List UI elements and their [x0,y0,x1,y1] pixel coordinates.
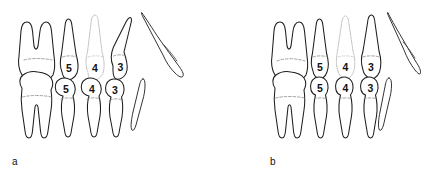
lower-canine-3-number: 3 [112,84,118,96]
panel-b-lower-canine-3: 3 [360,77,378,138]
panel-a-lower-premolar-4: 4 [81,78,101,137]
panel-b-label: b [270,156,276,167]
upper-premolar-5-number: 5 [317,61,323,73]
panel-a-upper-canine-3: 3 [111,18,131,80]
panel-a-upper-premolar-5: 5 [60,19,78,80]
panel-b-upper-premolar-4: 4 [336,16,354,79]
panel-b-isolated-tooth-lower [378,78,391,130]
panel-b-lower-premolar-4: 4 [335,77,353,138]
panel-b-lower-arch-row: 5 4 3 [273,72,378,138]
lower-molar-outline [273,72,306,138]
panel-a: 5 4 3 [12,13,183,167]
panel-b-lower-premolar-5: 5 [310,77,328,138]
panel-a-lower-arch-row: 5 4 3 [20,72,124,138]
lower-premolar-4-number: 4 [343,82,349,94]
lower-canine-3-number: 3 [368,82,374,94]
panel-b-upper-premolar-5: 5 [311,19,328,79]
lower-molar-outline [20,72,53,138]
panel-a-isolated-teeth [131,13,183,131]
panel-a-lower-molar [20,72,53,138]
dental-diagram-figure: 5 4 3 [0,0,421,179]
panel-a-isolated-tooth-lower [131,79,145,130]
isolated-tooth-lower-outline [378,78,391,130]
upper-canine-3-number: 3 [118,61,124,73]
upper-premolar-4-number: 4 [343,61,349,73]
upper-premolar-5-number: 5 [66,62,72,74]
panel-a-isolated-tooth-upper [141,13,183,77]
figure-canvas: 5 4 3 [0,0,421,179]
panel-a-lower-canine-3: 3 [105,79,124,137]
upper-canine-3-number: 3 [368,61,374,73]
panel-b: 5 4 3 [270,13,421,167]
isolated-tooth-upper-outline [141,13,183,77]
upper-premolar-4-number: 4 [92,62,98,74]
lower-premolar-4-number: 4 [89,83,95,95]
panel-a-lower-premolar-5: 5 [55,78,75,137]
panel-b-upper-canine-3: 3 [362,15,381,79]
panel-b-lower-molar [273,72,306,138]
panel-b-isolated-teeth [378,13,420,131]
isolated-tooth-lower-outline [131,79,145,130]
panel-a-label: a [12,156,18,167]
panel-b-isolated-tooth-upper [387,13,420,74]
panel-a-upper-premolar-4: 4 [86,15,104,80]
lower-premolar-5-number: 5 [63,83,69,95]
lower-premolar-5-number: 5 [317,82,323,94]
